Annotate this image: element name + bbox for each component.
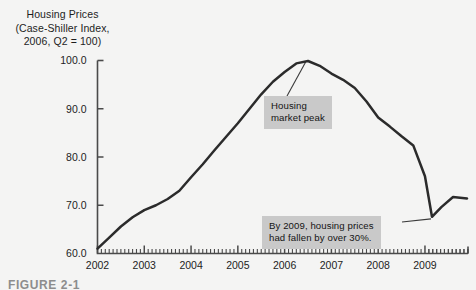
svg-text:2003: 2003 <box>133 259 157 271</box>
svg-text:2002: 2002 <box>86 259 110 271</box>
annotation-peak-line-1: Housing <box>271 100 325 112</box>
svg-text:60.0: 60.0 <box>66 247 87 259</box>
annotation-price-decline: By 2009, housing prices had fallen by ov… <box>262 216 381 249</box>
svg-text:90.0: 90.0 <box>66 103 87 115</box>
svg-text:2005: 2005 <box>226 259 250 271</box>
annotation-peak-line-2: market peak <box>271 112 325 124</box>
svg-text:100.0: 100.0 <box>60 54 86 66</box>
line-chart-plot: 60.070.080.090.0100.0 200220032004200520… <box>0 0 476 290</box>
annotation-decline-line-2: had fallen by over 30%. <box>269 232 374 244</box>
svg-text:2009: 2009 <box>413 259 437 271</box>
annotation-decline-line-1: By 2009, housing prices <box>269 220 374 232</box>
x-axis-tick-labels: 20022003200420052006200720082009 <box>86 259 437 271</box>
annotation-housing-market-peak: Housing market peak <box>264 96 332 129</box>
svg-text:70.0: 70.0 <box>66 199 87 211</box>
figure-caption: FIGURE 2-1 <box>8 278 80 290</box>
svg-text:2006: 2006 <box>273 259 297 271</box>
y-axis-tick-labels: 60.070.080.090.0100.0 <box>60 54 86 259</box>
svg-text:2008: 2008 <box>367 259 391 271</box>
y-axis-ticks <box>98 109 104 206</box>
svg-text:2007: 2007 <box>320 259 344 271</box>
svg-text:80.0: 80.0 <box>66 151 87 163</box>
svg-text:2004: 2004 <box>179 259 203 271</box>
figure-container: Housing Prices (Case-Shiller Index, 2006… <box>0 0 476 290</box>
